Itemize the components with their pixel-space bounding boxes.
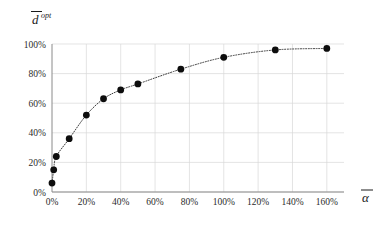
data-point-marker — [272, 47, 279, 54]
y-tick-label: 40% — [29, 128, 47, 138]
x-tick-label: 120% — [247, 197, 269, 207]
x-tick-label: 80% — [181, 197, 199, 207]
data-point-marker — [50, 166, 57, 173]
data-point-marker — [49, 180, 56, 187]
x-tick-label: 60% — [146, 197, 164, 207]
data-point-marker — [134, 81, 141, 88]
data-point-marker — [323, 45, 330, 52]
data-point-marker — [177, 66, 184, 73]
data-point-marker — [100, 95, 107, 102]
y-tick-label: 0% — [33, 188, 46, 198]
data-point-marker — [53, 153, 60, 160]
y-axis-title-base: d — [32, 12, 39, 27]
chart-canvas: 0%20%40%60%80%100% 0%20%40%60%80%100%120… — [0, 0, 388, 226]
y-tick-label: 100% — [24, 40, 46, 50]
y-tick-label: 80% — [29, 69, 47, 79]
x-tick-label: 40% — [112, 197, 130, 207]
y-tick-label: 60% — [29, 99, 47, 109]
x-tick-label: 0% — [46, 197, 59, 207]
y-axis-title-superscript: opt — [41, 11, 52, 20]
x-tick-label: 100% — [213, 197, 235, 207]
data-point-marker — [66, 135, 73, 142]
data-point-marker — [83, 112, 90, 119]
x-axis-title-base: α — [362, 190, 370, 205]
y-tick-label: 20% — [29, 158, 47, 168]
x-tick-label: 20% — [78, 197, 96, 207]
chart-figure: 0%20%40%60%80%100% 0%20%40%60%80%100%120… — [0, 0, 388, 226]
data-point-marker — [117, 86, 124, 93]
x-tick-label: 160% — [316, 197, 338, 207]
x-axis-tick-labels: 0%20%40%60%80%100%120%140%160% — [46, 197, 338, 207]
x-tick-label: 140% — [281, 197, 303, 207]
data-point-marker — [220, 54, 227, 61]
